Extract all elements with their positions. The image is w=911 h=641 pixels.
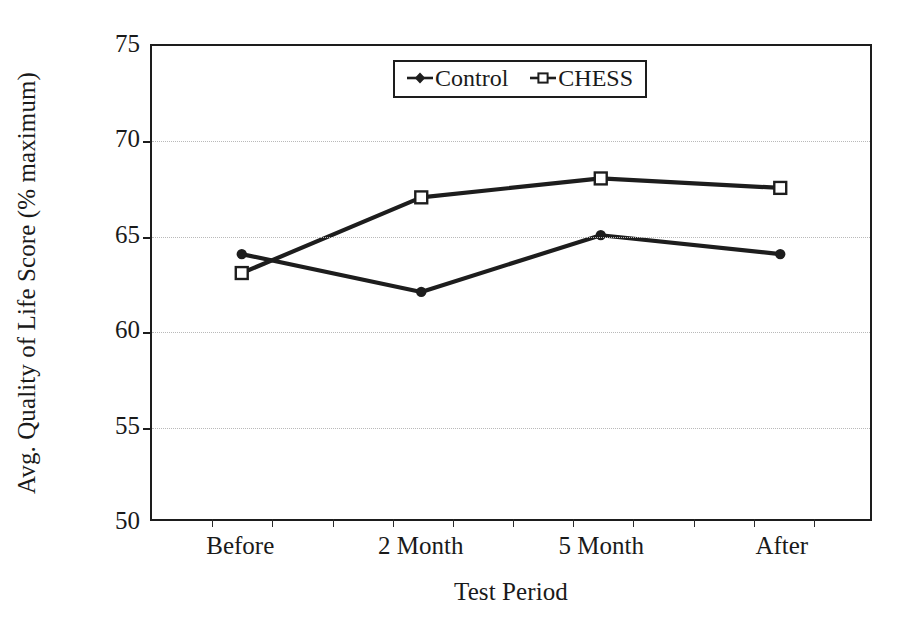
legend: Control CHESS bbox=[393, 60, 647, 98]
y-axis-tick-label: 75 bbox=[80, 31, 140, 56]
legend-label-chess: CHESS bbox=[558, 66, 633, 90]
x-axis-tick bbox=[272, 519, 273, 527]
data-point-chess-2-month bbox=[415, 191, 427, 203]
legend-entry-chess: CHESS bbox=[530, 66, 633, 90]
y-axis-tick-labels: 505560657075 bbox=[78, 44, 140, 521]
x-axis-tick bbox=[573, 519, 574, 527]
chess-series-marker-icon bbox=[530, 70, 556, 86]
y-axis-tick-label: 55 bbox=[80, 413, 140, 438]
series-line-control bbox=[242, 235, 781, 292]
y-axis-tick bbox=[143, 141, 152, 143]
y-axis-tick bbox=[143, 428, 152, 430]
series-line-chess bbox=[242, 178, 781, 273]
x-axis-tick bbox=[814, 519, 815, 527]
y-axis-title: Avg. Quality of Life Score (% maximum) bbox=[10, 33, 44, 533]
gridline bbox=[152, 237, 870, 238]
x-axis-tick bbox=[694, 519, 695, 527]
x-axis-tick-label: 2 Month bbox=[321, 530, 521, 562]
x-axis-tick bbox=[633, 519, 634, 527]
x-axis-tick bbox=[453, 519, 454, 527]
data-point-control-after bbox=[775, 249, 785, 259]
gridline bbox=[152, 141, 870, 142]
x-axis-tick-label: After bbox=[682, 530, 882, 562]
plot-area: Control CHESS bbox=[150, 44, 872, 521]
series-layer bbox=[152, 46, 870, 519]
chart-figure: Avg. Quality of Life Score (% maximum) 5… bbox=[0, 0, 911, 641]
x-axis-tick bbox=[393, 519, 394, 527]
y-axis-tick-label: 60 bbox=[80, 317, 140, 342]
y-axis-tick bbox=[143, 332, 152, 334]
x-axis-tick bbox=[212, 519, 213, 527]
data-point-control-2-month bbox=[416, 287, 426, 297]
y-axis-tick-label: 70 bbox=[80, 126, 140, 151]
legend-entry-control: Control bbox=[407, 66, 508, 90]
x-axis-tick-label: Before bbox=[140, 530, 340, 562]
x-axis-tick-label: 5 Month bbox=[501, 530, 701, 562]
data-point-chess-5-month bbox=[595, 172, 607, 184]
x-axis-tick bbox=[513, 519, 514, 527]
plot-inner bbox=[152, 46, 870, 519]
y-axis-tick-label: 65 bbox=[80, 222, 140, 247]
data-point-control-before bbox=[237, 249, 247, 259]
gridline bbox=[152, 332, 870, 333]
gridline bbox=[152, 428, 870, 429]
control-series-marker-icon bbox=[407, 70, 433, 86]
x-axis-title: Test Period bbox=[150, 578, 872, 606]
data-point-chess-before bbox=[236, 267, 248, 279]
x-axis-tick-labels: Before2 Month5 MonthAfter bbox=[150, 530, 872, 566]
x-axis-tick bbox=[333, 519, 334, 527]
data-point-chess-after bbox=[774, 182, 786, 194]
y-axis-tick bbox=[143, 237, 152, 239]
legend-label-control: Control bbox=[435, 66, 508, 90]
x-axis-tick bbox=[754, 519, 755, 527]
data-point-control-5-month bbox=[596, 230, 606, 240]
y-axis-tick-label: 50 bbox=[80, 508, 140, 533]
